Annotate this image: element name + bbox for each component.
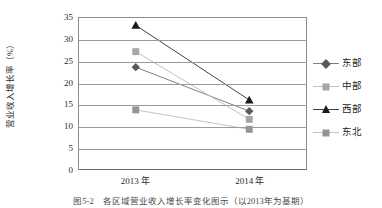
legend-item-2[interactable]: 中部 xyxy=(313,75,381,98)
data-point-marker xyxy=(132,63,140,71)
legend-key xyxy=(313,80,339,94)
data-point-marker xyxy=(132,48,139,55)
y-tick-label: 35 xyxy=(40,13,73,22)
figure-container: 营业收入增长率（%） 05101520253035 东部中部西部东北 图5-2 … xyxy=(0,0,382,208)
gridline xyxy=(79,84,306,85)
legend-label: 东部 xyxy=(339,58,362,69)
x-tick-label: 2013 年 xyxy=(100,176,170,186)
gridline xyxy=(79,149,306,150)
data-point-marker xyxy=(246,116,253,123)
diamond-marker-icon xyxy=(321,59,331,69)
y-axis-tick-labels: 05101520253035 xyxy=(40,0,73,208)
y-tick-label: 5 xyxy=(40,144,73,153)
legend-item-3[interactable]: 西部 xyxy=(313,98,381,121)
square-marker-icon xyxy=(323,129,330,136)
x-tick-label: 2014 年 xyxy=(215,176,285,186)
legend-key xyxy=(313,57,339,71)
data-point-marker xyxy=(245,96,254,104)
y-tick-label: 25 xyxy=(40,56,73,65)
legend-label: 中部 xyxy=(339,81,362,92)
legend-key xyxy=(313,103,339,117)
gridline xyxy=(79,62,306,63)
y-tick-label: 0 xyxy=(40,166,73,175)
gridline xyxy=(79,105,306,106)
square-marker-icon xyxy=(323,83,330,90)
gridline xyxy=(79,127,306,128)
legend-item-4[interactable]: 东北 xyxy=(313,121,381,144)
figure-caption: 图5-2 各区域营业收入增长率变化图示（以2013年为基期） xyxy=(0,196,382,207)
y-tick-label: 15 xyxy=(40,100,73,109)
legend-label: 西部 xyxy=(339,104,362,115)
plot-area xyxy=(78,17,307,170)
chart-legend: 东部中部西部东北 xyxy=(313,52,381,144)
y-tick-label: 20 xyxy=(40,78,73,87)
y-tick-label: 30 xyxy=(40,34,73,43)
gridline xyxy=(79,40,306,41)
y-axis-title: 营业收入增长率（%） xyxy=(2,28,18,140)
data-point-marker xyxy=(245,107,253,115)
legend-key xyxy=(313,126,339,140)
data-point-marker xyxy=(131,21,140,29)
y-tick-label: 10 xyxy=(40,122,73,131)
legend-item-1[interactable]: 东部 xyxy=(313,52,381,75)
legend-label: 东北 xyxy=(339,127,362,138)
data-point-marker xyxy=(132,106,139,113)
triangle-marker-icon xyxy=(322,105,330,113)
